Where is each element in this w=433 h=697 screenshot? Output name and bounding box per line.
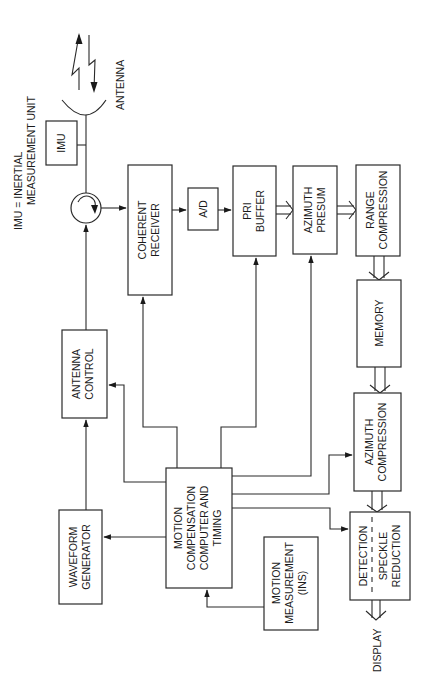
- pri-buffer-block: PRI BUFFER: [233, 166, 276, 256]
- legend-line-2: MEASUREMENT UNIT: [25, 96, 37, 205]
- detection-speckle-block: DETECTION SPECKLE REDUCTION: [350, 512, 410, 600]
- svg-text:RECEIVER: RECEIVER: [149, 203, 161, 257]
- double-arrow: [337, 201, 356, 219]
- double-arrow: [366, 600, 386, 620]
- svg-text:BUFFER: BUFFER: [254, 190, 266, 232]
- svg-text:SPECKLE: SPECKLE: [377, 532, 389, 580]
- svg-text:ANTENNA: ANTENNA: [70, 349, 82, 399]
- svg-text:(INS): (INS): [296, 571, 308, 596]
- double-arrow: [367, 491, 387, 512]
- coherent-receiver-block: COHERENT RECEIVER: [128, 165, 172, 295]
- double-arrow: [369, 256, 389, 280]
- waveform-generator-block: WAVEFORM GENERATOR: [59, 510, 102, 604]
- svg-text:MOTION: MOTION: [270, 562, 282, 604]
- legend-line-1: IMU = INERTIAL: [12, 152, 24, 230]
- sar-block-diagram: IMU = INERTIAL MEASUREMENT UNIT ANTENNA …: [0, 0, 433, 697]
- ad-converter-block: A/D: [188, 188, 218, 230]
- svg-text:PRESUM: PRESUM: [315, 188, 327, 233]
- range-compression-block: RANGE COMPRESSION: [356, 165, 400, 256]
- svg-text:A/D: A/D: [197, 200, 209, 218]
- svg-text:COHERENT: COHERENT: [136, 200, 148, 260]
- svg-text:TIMING: TIMING: [211, 510, 223, 547]
- svg-text:COMPRESSION: COMPRESSION: [376, 403, 388, 482]
- svg-text:GENERATOR: GENERATOR: [80, 524, 92, 590]
- svg-text:COMPRESSION: COMPRESSION: [377, 171, 389, 250]
- azimuth-compression-block: AZIMUTH COMPRESSION: [354, 393, 401, 491]
- svg-text:CONTROL: CONTROL: [83, 348, 95, 399]
- svg-text:COMPENSATION: COMPENSATION: [185, 486, 197, 570]
- motion-compensation-block: MOTION COMPENSATION COMPUTER AND TIMING: [166, 468, 232, 588]
- svg-text:DETECTION: DETECTION: [357, 526, 369, 587]
- double-arrow: [370, 367, 390, 393]
- double-arrow: [276, 201, 293, 219]
- antenna-control-block: ANTENNA CONTROL: [62, 330, 107, 418]
- svg-text:MEASUREMENT: MEASUREMENT: [283, 542, 295, 624]
- azimuth-presum-block: AZIMUTH PRESUM: [293, 166, 337, 254]
- memory-block: MEMORY: [357, 280, 401, 367]
- svg-text:AZIMUTH: AZIMUTH: [363, 419, 375, 466]
- motion-measurement-block: MOTION MEASUREMENT (INS): [264, 537, 318, 630]
- svg-text:RANGE: RANGE: [364, 191, 376, 228]
- imu-legend: IMU = INERTIAL MEASUREMENT UNIT: [12, 96, 37, 230]
- display-label: DISPLAY: [371, 628, 383, 672]
- svg-text:COMPUTER AND: COMPUTER AND: [198, 485, 210, 570]
- svg-text:AZIMUTH: AZIMUTH: [302, 187, 314, 234]
- antenna-label: ANTENNA: [114, 60, 126, 110]
- circulator-icon: [71, 193, 101, 223]
- antenna-icon: [62, 33, 106, 193]
- svg-text:MEMORY: MEMORY: [373, 299, 385, 346]
- svg-text:MOTION: MOTION: [172, 507, 184, 549]
- svg-text:WAVEFORM: WAVEFORM: [67, 527, 79, 588]
- svg-text:REDUCTION: REDUCTION: [390, 525, 402, 587]
- svg-text:PRI: PRI: [241, 202, 253, 220]
- imu-block: IMU: [46, 121, 77, 165]
- svg-text:IMU: IMU: [55, 133, 67, 152]
